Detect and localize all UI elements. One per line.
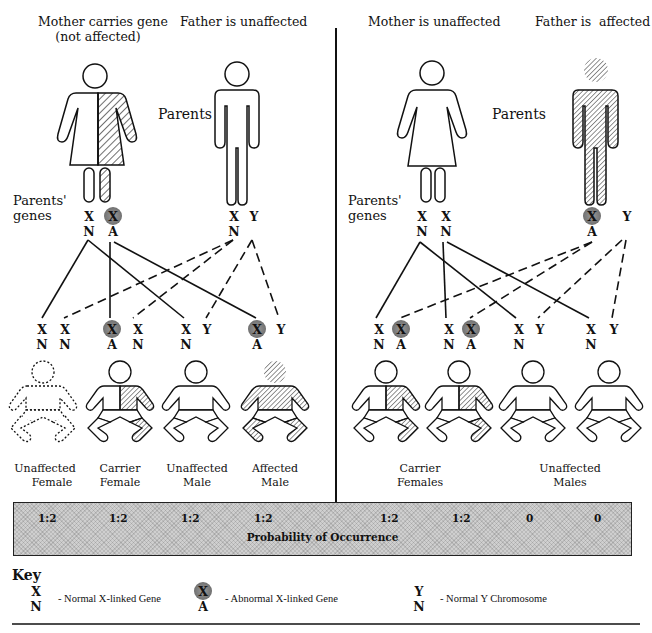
caption-affected-male: AffectedMale [245,462,305,490]
left-mother-title: Mother carries gene (not affected) [38,14,158,44]
probability-value: 1:2 [38,512,57,524]
baby-unaffected-female [9,361,76,442]
right-child1-gene1: XN [371,322,387,352]
left-child2-gene2: XN [130,322,146,352]
baby-carrier-female-2 [425,361,492,442]
left-child1-gene1: XN [34,322,50,352]
right-father-gene-abnormal: XA [584,209,600,239]
right-child3-gene1: XN [511,322,527,352]
right-child2-gene1: XN [441,322,457,352]
right-father-title: Father is affected [535,14,650,29]
key-normal-x-description: - Normal X-linked Gene [58,593,161,604]
right-mother-gene-1: XN [414,209,430,239]
father-affected-figure [573,58,618,205]
right-child3-gene2: Y [532,322,548,352]
left-father-title: Father is unaffected [180,14,300,29]
left-parents-label: Parents [158,106,212,122]
probability-value: 0 [594,512,601,524]
baby-unaffected-male-1 [499,361,566,442]
probability-value: 1:2 [109,512,128,524]
baby-affected-male [241,361,308,442]
probability-value: 0 [526,512,533,524]
key-normal-x-symbol: XN [28,584,44,614]
probability-value: 1:2 [380,512,399,524]
caption-unaffected-male: UnaffectedMale [162,462,232,490]
left-mother-gene-abnormal: XA [105,209,121,239]
right-mother-title: Mother is unaffected [368,14,498,29]
left-child2-gene1: XA [104,322,120,352]
left-inheritance-lines [42,240,279,318]
right-child1-gene2: XA [393,322,409,352]
right-mother-gene-2: XN [438,209,454,239]
key-abnormal-x-description: - Abnormal X-linked Gene [225,593,338,604]
left-father-gene-y: Y [246,209,262,239]
probability-value: 1:2 [181,512,200,524]
mother-carrier-figure [58,64,137,202]
key-normal-y-symbol: YN [411,584,427,614]
father-unaffected-figure [215,62,259,205]
left-child4-gene1: XA [249,322,265,352]
key-title: Key [12,567,41,583]
caption-carrier-females: CarrierFemales [385,462,455,490]
right-parents-genes-label: Parents' genes [348,193,402,223]
left-child1-gene2: XN [57,322,73,352]
right-child4-gene1: XN [583,322,599,352]
baby-unaffected-male [162,361,229,442]
baby-carrier-female [86,361,153,442]
probability-bar: 1:2 1:2 1:2 1:2 1:2 1:2 0 0 Probability … [13,502,632,556]
left-child3-gene1: XN [178,322,194,352]
key-abnormal-x-symbol: XA [195,584,211,614]
probability-title: Probability of Occurrence [14,531,631,543]
left-parents-genes-label: Parents' genes [13,193,67,223]
baby-unaffected-male-2 [575,361,642,442]
right-parents-label: Parents [492,106,546,122]
caption-unaffected-female: UnaffectedFemale [10,462,80,490]
caption-unaffected-males: UnaffectedMales [530,462,610,490]
right-child2-gene2: XA [463,322,479,352]
mother-unaffected-figure [398,61,467,202]
baby-carrier-female-1 [352,361,419,442]
probability-value: 1:2 [452,512,471,524]
right-child4-gene2: Y [606,322,622,352]
probability-value: 1:2 [254,512,273,524]
left-child4-gene2: Y [273,322,289,352]
caption-carrier-female: CarrierFemale [90,462,150,490]
key-normal-y-description: - Normal Y Chromosome [440,593,547,604]
left-mother-gene-normal: XN [81,209,97,239]
right-father-gene-y: Y [619,209,635,239]
x-linked-inheritance-diagram: Mother carries gene (not affected) Fathe… [0,0,652,633]
right-inheritance-lines [376,240,626,318]
left-father-gene-x: XN [226,209,242,239]
left-child3-gene2: Y [199,322,215,352]
